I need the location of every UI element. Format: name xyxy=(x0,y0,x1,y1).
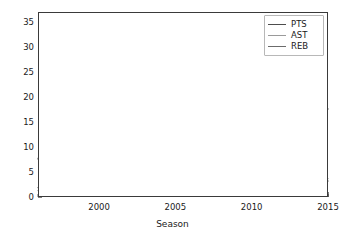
legend-item-reb: REB xyxy=(268,41,319,52)
x-axis-title: Season xyxy=(0,219,345,229)
chart-figure: 05101520253035 2000200520102015 Season P… xyxy=(0,0,345,243)
legend-item-ast: AST xyxy=(268,30,319,41)
x-tick-label: 2000 xyxy=(83,203,115,212)
chart-legend: PTS AST REB xyxy=(264,15,324,56)
x-tick-label: 2015 xyxy=(312,203,344,212)
y-tick-label: 25 xyxy=(8,68,34,77)
y-tick-label: 35 xyxy=(8,18,34,27)
y-tick-label: 15 xyxy=(8,118,34,127)
y-tick-label: 20 xyxy=(8,93,34,102)
legend-label-reb: REB xyxy=(291,42,308,51)
y-tick-label: 5 xyxy=(8,168,34,177)
y-tick-label: 30 xyxy=(8,43,34,52)
legend-item-pts: PTS xyxy=(268,19,319,30)
y-tick-label: 10 xyxy=(8,143,34,152)
legend-swatch-pts xyxy=(268,24,286,25)
legend-label-pts: PTS xyxy=(291,20,307,29)
y-tick-label: 0 xyxy=(8,193,34,202)
legend-swatch-reb xyxy=(268,46,286,47)
x-tick-label: 2005 xyxy=(159,203,191,212)
x-tick-label: 2010 xyxy=(236,203,268,212)
legend-label-ast: AST xyxy=(291,31,307,40)
legend-swatch-ast xyxy=(268,35,286,36)
